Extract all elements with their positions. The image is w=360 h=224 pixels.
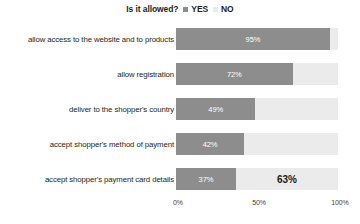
bar-segment-yes[interactable]: 95% <box>176 28 330 50</box>
legend-swatch-yes <box>183 7 188 12</box>
table-row: allow registration 72% <box>0 63 360 85</box>
category-label: allow access to the website and to produ… <box>0 35 176 44</box>
bar-segment-yes[interactable]: 37% <box>176 168 236 190</box>
bar-value-label: 37% <box>199 175 214 184</box>
x-axis-tick: 0% <box>173 199 183 206</box>
bar-track: 95% <box>176 28 338 50</box>
bar-segment-yes[interactable]: 42% <box>176 133 244 155</box>
x-axis-tick: 50% <box>252 199 266 206</box>
legend-entry-yes[interactable]: YES <box>183 4 208 14</box>
chart-legend: Is it allowed? YES NO <box>0 2 360 16</box>
stacked-bar-chart: Is it allowed? YES NO allow access to th… <box>0 0 360 224</box>
bar-segment-no[interactable] <box>330 28 338 50</box>
bar-segment-no[interactable]: 63% <box>236 168 338 190</box>
bar-value-annotation: 63% <box>277 174 297 185</box>
bar-segment-yes[interactable]: 72% <box>176 63 293 85</box>
table-row: deliver to the shopper's country 49% <box>0 98 360 120</box>
table-row: accept shopper's payment card details 37… <box>0 168 360 190</box>
bar-track: 37% 63% <box>176 168 338 190</box>
bar-value-label: 95% <box>246 35 261 44</box>
bar-track: 49% <box>176 98 338 120</box>
bar-segment-no[interactable] <box>255 98 338 120</box>
bar-value-label: 72% <box>227 70 242 79</box>
bar-segment-no[interactable] <box>293 63 338 85</box>
bar-track: 42% <box>176 133 338 155</box>
bar-track: 72% <box>176 63 338 85</box>
legend-swatch-no <box>213 7 218 12</box>
bar-value-label: 42% <box>203 140 218 149</box>
category-label: accept shopper's method of payment <box>0 140 176 149</box>
plot-area: allow access to the website and to produ… <box>0 20 360 198</box>
bar-segment-no[interactable] <box>244 133 338 155</box>
category-label: accept shopper's payment card details <box>0 175 176 184</box>
legend-title: Is it allowed? <box>126 4 178 14</box>
category-label: deliver to the shopper's country <box>0 105 176 114</box>
x-axis-tick: 100% <box>331 199 349 206</box>
legend-label-no: NO <box>221 4 234 14</box>
category-label: allow registration <box>0 70 176 79</box>
legend-entry-no[interactable]: NO <box>213 4 234 14</box>
table-row: accept shopper's method of payment 42% <box>0 133 360 155</box>
table-row: allow access to the website and to produ… <box>0 28 360 50</box>
x-axis: 0% 50% 100% <box>176 199 360 213</box>
bar-segment-yes[interactable]: 49% <box>176 98 255 120</box>
legend-label-yes: YES <box>191 4 208 14</box>
bar-value-label: 49% <box>208 105 223 114</box>
